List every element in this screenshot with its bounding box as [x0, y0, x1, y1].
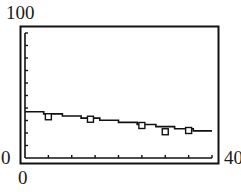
data-point-marker — [87, 116, 93, 122]
plot-area — [0, 0, 241, 192]
data-point-marker — [45, 114, 51, 120]
data-point-marker — [139, 123, 145, 129]
regression-line — [25, 112, 212, 131]
axes — [25, 33, 212, 158]
data-point-marker — [162, 129, 168, 135]
plot-frame — [21, 27, 219, 164]
regression-line-path — [25, 112, 212, 131]
data-point-marker — [186, 128, 192, 134]
data-points — [45, 114, 191, 135]
